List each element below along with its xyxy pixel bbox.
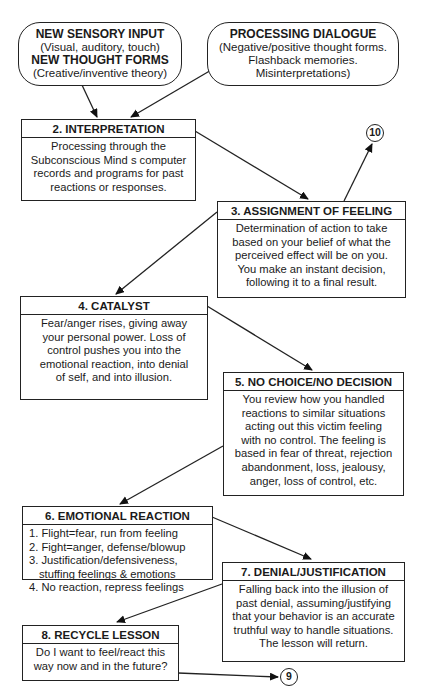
- step-title: 2. INTERPRETATION: [22, 120, 195, 138]
- body-line: abandonment, loss, jealousy,: [227, 461, 400, 475]
- node-line: Flashback memories.: [212, 54, 394, 67]
- body-line: your personal power. Loss of: [24, 331, 204, 345]
- body-line: reactions or responses.: [25, 181, 192, 195]
- body-line: way now and in the future?: [26, 660, 175, 674]
- node-line: NEW THOUGHT FORMS: [23, 54, 177, 67]
- step-title: 6. EMOTIONAL REACTION: [23, 507, 212, 525]
- body-line: The lesson will return.: [226, 637, 401, 651]
- body-line: of self, and into illusion.: [24, 371, 204, 385]
- node-line: (Negative/positive thought forms.: [212, 41, 394, 54]
- body-line: Do I want to feel/react this: [26, 646, 175, 660]
- body-line: past denial, assuming/justifying: [226, 597, 401, 611]
- arrow-2-to-3: [195, 131, 308, 199]
- body-line: Subconscious Mind s computer: [25, 154, 192, 168]
- step-body: Processing through the Subconscious Mind…: [22, 138, 195, 197]
- input-node-sensory: NEW SENSORY INPUT (Visual, auditory, tou…: [18, 22, 182, 86]
- body-line: truthful way to handle situations.: [226, 624, 401, 638]
- node-line: (Creative/inventive theory): [23, 67, 177, 80]
- step-box-no-choice-no-decision: 5. NO CHOICE/NO DECISION You review how …: [223, 372, 404, 496]
- step-body: Determination of action to take based on…: [218, 220, 405, 293]
- step-box-assignment-of-feeling: 3. ASSIGNMENT OF FEELING Determination o…: [217, 201, 406, 298]
- step-body: Do I want to feel/react this way now and…: [23, 644, 178, 676]
- arrow-4-to-5: [207, 306, 312, 370]
- connector-10-circle: 10: [366, 124, 384, 142]
- node-line: PROCESSING DIALOGUE: [212, 28, 394, 41]
- list-item: 4. No reaction, repress feelings: [29, 581, 209, 595]
- body-line: Falling back into the illusion of: [226, 583, 401, 597]
- arrow-input1-to-2: [82, 85, 97, 117]
- step-title: 7. DENIAL/JUSTIFICATION: [223, 563, 404, 581]
- step-title: 8. RECYCLE LESSON: [23, 626, 178, 644]
- arrow-8-to-9: [178, 673, 278, 677]
- body-line: with no control. The feeling is: [227, 434, 400, 448]
- step-title: 3. ASSIGNMENT OF FEELING: [218, 202, 405, 220]
- step-box-recycle-lesson: 8. RECYCLE LESSON Do I want to feel/reac…: [22, 625, 179, 681]
- list-item: 3. Justification/defensiveness,: [29, 554, 209, 568]
- list-item-continuation: stuffing feelings & emotions: [29, 568, 209, 582]
- arrow-6-to-7: [212, 517, 311, 559]
- connector-label: 9: [286, 670, 292, 682]
- flowchart-canvas: NEW SENSORY INPUT (Visual, auditory, tou…: [0, 0, 422, 698]
- node-line: NEW SENSORY INPUT: [23, 28, 177, 41]
- connector-label: 10: [369, 126, 381, 138]
- arrow-3-to-4: [116, 212, 217, 294]
- connector-9-circle: 9: [280, 668, 298, 686]
- body-line: based on your belief of what the: [221, 236, 402, 250]
- body-line: that your behavior is an accurate: [226, 610, 401, 624]
- step-title: 5. NO CHOICE/NO DECISION: [224, 373, 403, 391]
- body-line: records and programs for past: [25, 167, 192, 181]
- body-line: Processing through the: [25, 140, 192, 154]
- step-box-denial-justification: 7. DENIAL/JUSTIFICATION Falling back int…: [222, 562, 405, 662]
- body-line: acting out this victim feeling: [227, 420, 400, 434]
- step-body: 1. Flight=fear, run from feeling 2. Figh…: [23, 525, 212, 598]
- body-line: following it to a final result.: [221, 276, 402, 290]
- step-body: You review how you handled reactions to …: [224, 391, 403, 491]
- body-line: Fear/anger rises, giving away: [24, 317, 204, 331]
- body-line: control pushes you into the: [24, 344, 204, 358]
- body-line: You review how you handled: [227, 393, 400, 407]
- input-node-processing-dialogue: PROCESSING DIALOGUE (Negative/positive t…: [207, 22, 399, 86]
- body-line: reactions to similar situations: [227, 407, 400, 421]
- list-item: 2. Fight=anger, defense/blowup: [29, 541, 209, 555]
- list-item: 1. Flight=fear, run from feeling: [29, 527, 209, 541]
- step-box-interpretation: 2. INTERPRETATION Processing through the…: [21, 119, 196, 201]
- body-line: anger, loss of control, etc.: [227, 475, 400, 489]
- node-line: Misinterpretations): [212, 67, 394, 80]
- step-body: Fear/anger rises, giving away your perso…: [21, 315, 207, 388]
- arrow-5-to-6: [120, 446, 223, 504]
- step-body: Falling back into the illusion of past d…: [223, 581, 404, 654]
- body-line: perceived effect will be on you.: [221, 249, 402, 263]
- step-title: 4. CATALYST: [21, 297, 207, 315]
- step-box-catalyst: 4. CATALYST Fear/anger rises, giving awa…: [20, 296, 208, 400]
- arrow-3-to-10: [344, 144, 372, 201]
- body-line: based in fear of threat, rejection: [227, 447, 400, 461]
- body-line: emotional reaction, into denial: [24, 358, 204, 372]
- body-line: Determination of action to take: [221, 222, 402, 236]
- step-box-emotional-reaction: 6. EMOTIONAL REACTION 1. Flight=fear, ru…: [22, 506, 213, 580]
- body-line: You make an instant decision,: [221, 263, 402, 277]
